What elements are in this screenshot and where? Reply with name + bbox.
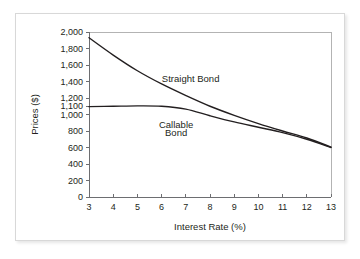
y-tick-label: 1,600 [60, 60, 83, 70]
x-axis-tick-labels: 345678910111213 [86, 202, 336, 212]
x-tick-label: 3 [86, 202, 91, 212]
x-tick-label: 8 [207, 202, 212, 212]
x-tick-label: 5 [135, 202, 140, 212]
y-tick-label: 1,200 [60, 93, 83, 103]
series-label-callable-bond-line2: Bond [165, 127, 187, 138]
series-annotations: Straight Bond Callable Bond [159, 73, 219, 138]
y-tick-label: 400 [68, 159, 83, 169]
y-tick-label: 800 [68, 126, 83, 136]
x-tick-label: 12 [302, 202, 312, 212]
x-tick-label: 10 [253, 202, 263, 212]
y-axis-ticks [86, 32, 90, 197]
y-tick-label: 600 [68, 143, 83, 153]
y-tick-label: 0 [78, 192, 83, 202]
bond-price-chart: 02004006008001,0001,1001,2001,4001,6001,… [16, 14, 344, 240]
x-tick-label: 13 [326, 202, 336, 212]
figure-root: 02004006008001,0001,1001,2001,4001,6001,… [0, 0, 360, 259]
y-tick-label: 2,000 [60, 27, 83, 37]
chart-card: 02004006008001,0001,1001,2001,4001,6001,… [15, 13, 345, 241]
plot-axes [89, 32, 331, 197]
x-tick-label: 6 [159, 202, 164, 212]
plot-frame [89, 32, 331, 197]
y-axis-title: Prices ($) [29, 94, 40, 135]
series-callable-bond [89, 106, 331, 148]
series-straight-bond [89, 38, 331, 147]
x-axis-title: Interest Rate (%) [174, 221, 246, 232]
series-label-straight-bond: Straight Bond [162, 73, 220, 84]
x-axis-ticks [89, 194, 331, 198]
y-tick-label: 1,800 [60, 44, 83, 54]
y-axis-tick-labels: 02004006008001,0001,1001,2001,4001,6001,… [60, 27, 83, 202]
y-tick-label: 200 [68, 176, 83, 186]
y-tick-label: 1,400 [60, 77, 83, 87]
data-series [89, 38, 331, 148]
x-tick-label: 4 [111, 202, 116, 212]
x-tick-label: 7 [183, 202, 188, 212]
x-tick-label: 11 [278, 202, 287, 212]
x-tick-label: 9 [232, 202, 237, 212]
